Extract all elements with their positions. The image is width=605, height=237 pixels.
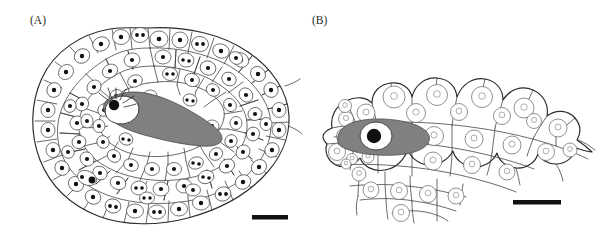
- cell-nucleus-b: [407, 104, 426, 123]
- cell-nucleus-a: [153, 182, 169, 196]
- cell-nucleus-b: [499, 164, 515, 180]
- cell-nucleus-a: [41, 103, 55, 118]
- cell-nucleus-a: [272, 103, 286, 118]
- shaded-cell-nucleolus-b: [367, 129, 381, 143]
- scale-bar-a: [252, 215, 288, 220]
- cell-nucleus-b: [424, 152, 442, 170]
- cell-nucleus-b: [391, 183, 408, 200]
- cell-nucleus-b: [472, 87, 493, 108]
- cell-nucleus-a: [272, 123, 286, 138]
- cell-nucleus-a: [140, 192, 155, 204]
- cell-nucleus-a: [171, 202, 188, 216]
- cell-nucleus-a: [113, 30, 130, 45]
- cell-nucleus-b: [465, 130, 483, 148]
- cell-nucleus-b: [448, 188, 464, 204]
- panel-b-label: (B): [312, 14, 328, 27]
- cell-nucleus-a: [93, 120, 105, 133]
- cell-nucleus-a: [41, 123, 55, 138]
- cell-nucleus-a: [46, 143, 60, 158]
- cell-nucleus-a: [172, 32, 188, 48]
- cell-nucleus-b: [563, 143, 577, 157]
- cell-nucleus-a: [260, 118, 272, 131]
- cell-nucleus-b: [341, 159, 351, 169]
- cell-nucleus-b: [420, 186, 437, 203]
- cell-nucleus-b: [549, 119, 567, 137]
- cell-nucleus-a: [145, 163, 160, 176]
- cell-nucleus-b: [363, 182, 379, 198]
- cell-nucleus-a: [155, 50, 171, 64]
- cell-nucleus-b: [464, 157, 481, 174]
- cell-nucleus-b: [393, 205, 410, 222]
- cell-nucleus-b: [427, 85, 448, 106]
- cell-nucleus-a: [132, 28, 149, 43]
- two-panel-cell-diagram: (A): [0, 0, 605, 237]
- cell-nucleus-b: [451, 104, 468, 121]
- cell-nucleus-a: [150, 31, 168, 47]
- cell-nucleus-a: [230, 117, 242, 130]
- cell-nucleus-b: [383, 86, 405, 108]
- cell-nucleus-a: [186, 184, 201, 196]
- cell-nucleus-a: [167, 163, 182, 176]
- cell-nucleus-b: [527, 114, 542, 129]
- panel-a-label: (A): [30, 14, 46, 27]
- cell-nucleus-b: [339, 100, 352, 113]
- figure-container: (A): [0, 0, 605, 237]
- scale-bar-b: [513, 200, 561, 205]
- cell-nucleus-a: [149, 205, 166, 219]
- cell-nucleus-b: [352, 167, 366, 181]
- cell-nucleus-a: [193, 196, 210, 210]
- cell-nucleus-b: [494, 108, 511, 125]
- shaded-cell-nucleolus-a: [109, 100, 119, 110]
- cell-nucleus-b: [538, 144, 555, 161]
- cell-nucleus-b: [503, 136, 521, 154]
- cell-nucleus-a: [127, 204, 144, 218]
